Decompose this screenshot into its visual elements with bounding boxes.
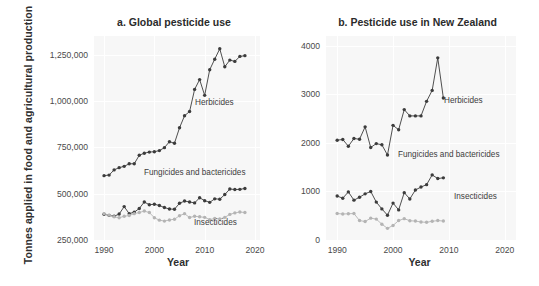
data-point <box>341 138 344 141</box>
data-point <box>153 216 156 219</box>
data-point <box>218 198 221 201</box>
data-point <box>442 176 445 179</box>
data-point <box>143 200 146 203</box>
data-point <box>341 197 344 200</box>
data-point <box>138 211 141 214</box>
pesticide-use-figure: Tonnes applied in food and agricultural … <box>0 0 539 286</box>
x-tick-label: 2000 <box>384 245 403 255</box>
data-point <box>128 214 131 217</box>
data-point <box>218 47 221 50</box>
data-point <box>397 219 400 222</box>
data-point <box>168 140 171 143</box>
data-point <box>430 173 433 176</box>
data-point <box>223 193 226 196</box>
data-point <box>375 142 378 145</box>
data-point <box>173 208 176 211</box>
panel-a-title: a. Global pesticide use <box>36 16 290 28</box>
series-annotation-fungicides-and-bactericides: Fungicides and bactericides <box>144 168 246 177</box>
data-point <box>213 57 216 60</box>
gridline-horizontal <box>94 240 260 241</box>
data-point <box>148 150 151 153</box>
x-tick-label: 2010 <box>439 245 458 255</box>
series-herbicides <box>335 56 445 157</box>
x-tick-label: 2000 <box>145 245 164 255</box>
data-point <box>117 166 120 169</box>
data-point <box>243 211 246 214</box>
data-point <box>408 114 411 117</box>
series-fungicides-and-bactericides <box>102 187 246 218</box>
data-point <box>352 212 355 215</box>
panel-b-series-layer <box>326 36 516 240</box>
data-point <box>425 221 428 224</box>
data-point <box>102 174 105 177</box>
series-line <box>337 58 443 155</box>
data-point <box>386 214 389 217</box>
data-point <box>188 200 191 203</box>
data-point <box>143 209 146 212</box>
data-point <box>347 145 350 148</box>
data-point <box>380 207 383 210</box>
y-tick-label: 0 <box>315 235 320 245</box>
data-point <box>363 125 366 128</box>
data-point <box>391 224 394 227</box>
data-point <box>148 211 151 214</box>
data-point <box>223 65 226 68</box>
panel-b-x-axis-label: Year <box>272 256 539 268</box>
data-point <box>158 218 161 221</box>
data-point <box>122 165 125 168</box>
data-point <box>112 215 115 218</box>
data-point <box>198 78 201 81</box>
data-point <box>178 202 181 205</box>
data-point <box>375 200 378 203</box>
data-point <box>403 108 406 111</box>
data-point <box>243 54 246 57</box>
x-tick-label: 2020 <box>495 245 514 255</box>
data-point <box>403 217 406 220</box>
data-point <box>138 207 141 210</box>
y-tick-label: 500,000 <box>57 189 88 199</box>
data-point <box>233 211 236 214</box>
data-point <box>341 212 344 215</box>
series-fungicides-and-bactericides <box>335 173 445 217</box>
data-point <box>335 138 338 141</box>
series-annotation-insecticides: Insecticides <box>454 192 497 201</box>
gridline-horizontal <box>326 240 516 241</box>
data-point <box>128 162 131 165</box>
data-point <box>208 201 211 204</box>
data-point <box>198 196 201 199</box>
data-point <box>163 146 166 149</box>
data-point <box>397 208 400 211</box>
data-point <box>143 152 146 155</box>
x-tick-label: 1990 <box>95 245 114 255</box>
panel-a-plot-area: 250,000500,000750,0001,000,0001,250,000 … <box>94 36 260 240</box>
data-point <box>386 227 389 230</box>
data-point <box>193 201 196 204</box>
data-point <box>442 219 445 222</box>
data-point <box>153 150 156 153</box>
shared-y-axis-label: Tonnes applied in food and agricultural … <box>18 0 38 270</box>
data-point <box>419 185 422 188</box>
data-point <box>112 168 115 171</box>
data-point <box>173 218 176 221</box>
data-point <box>178 214 181 217</box>
data-point <box>414 188 417 191</box>
series-annotation-fungicides-and-bactericides: Fungicides and bactericides <box>398 150 500 159</box>
data-point <box>233 188 236 191</box>
panel-a-series-layer <box>94 36 260 240</box>
data-point <box>391 201 394 204</box>
data-point <box>414 219 417 222</box>
data-point <box>419 114 422 117</box>
data-point <box>158 204 161 207</box>
data-point <box>408 197 411 200</box>
data-point <box>397 128 400 131</box>
data-point <box>122 215 125 218</box>
data-point <box>122 205 125 208</box>
data-point <box>436 177 439 180</box>
data-point <box>233 60 236 63</box>
data-point <box>163 206 166 209</box>
y-tick-label: 3000 <box>301 89 320 99</box>
data-point <box>183 212 186 215</box>
data-point <box>425 100 428 103</box>
data-point <box>408 219 411 222</box>
data-point <box>188 216 191 219</box>
